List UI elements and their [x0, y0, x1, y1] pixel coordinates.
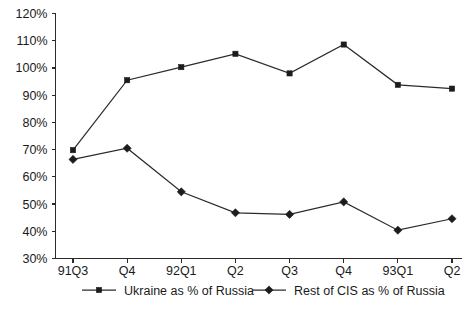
y-tick-label: 60%	[22, 170, 47, 184]
series-2	[69, 144, 456, 234]
y-tick-label: 110%	[16, 34, 47, 48]
x-tick-label: Q2	[227, 264, 244, 278]
chart-canvas: 120%110%100%90%80%70%60%50%40%30% 91Q3Q4…	[0, 0, 470, 309]
data-point-marker	[394, 226, 402, 234]
y-axis-tick-labels: 120%110%100%90%80%70%60%50%40%30%	[16, 7, 48, 266]
data-point-marker	[341, 42, 346, 47]
chart-legend: Ukraine as % of RussiaRest of CIS as % o…	[82, 284, 445, 298]
data-point-marker	[231, 209, 239, 217]
x-tick-label: Q3	[281, 264, 298, 278]
legend-diamond-marker-icon	[265, 286, 273, 294]
x-axis-tick-marks	[73, 259, 452, 264]
data-point-marker	[125, 78, 130, 83]
x-tick-label: 91Q3	[58, 264, 89, 278]
y-tick-label: 50%	[22, 198, 47, 212]
y-tick-label: 100%	[16, 61, 48, 75]
data-point-marker	[179, 65, 184, 70]
data-point-marker	[340, 198, 348, 206]
series-group	[69, 42, 456, 234]
y-tick-label: 120%	[16, 7, 48, 21]
legend-label: Rest of CIS as % of Russia	[294, 284, 445, 298]
x-axis-tick-labels: 91Q3Q492Q1Q2Q3Q493Q1Q2	[58, 264, 461, 278]
y-tick-label: 70%	[22, 143, 47, 157]
data-point-marker	[287, 71, 292, 76]
data-point-marker	[70, 148, 75, 153]
data-point-marker	[69, 155, 77, 163]
x-tick-label: Q4	[119, 264, 136, 278]
series-line	[73, 148, 452, 230]
data-point-marker	[448, 215, 456, 223]
legend-item-2[interactable]: Rest of CIS as % of Russia	[252, 284, 445, 298]
legend-square-marker-icon	[96, 287, 101, 292]
data-point-marker	[395, 82, 400, 87]
data-point-marker	[285, 210, 293, 218]
data-point-marker	[233, 51, 238, 56]
y-tick-label: 40%	[22, 225, 47, 239]
legend-item-1[interactable]: Ukraine as % of Russia	[82, 284, 254, 298]
y-tick-label: 30%	[22, 252, 47, 266]
x-tick-label: Q2	[444, 264, 461, 278]
y-tick-label: 80%	[22, 116, 47, 130]
y-tick-label: 90%	[22, 89, 47, 103]
x-tick-label: Q4	[335, 264, 352, 278]
data-point-marker	[449, 86, 454, 91]
x-tick-label: 93Q1	[383, 264, 414, 278]
line-chart: 120%110%100%90%80%70%60%50%40%30% 91Q3Q4…	[0, 0, 470, 309]
series-1	[70, 42, 454, 153]
series-line	[73, 45, 452, 151]
x-tick-label: 92Q1	[166, 264, 197, 278]
legend-label: Ukraine as % of Russia	[124, 284, 254, 298]
